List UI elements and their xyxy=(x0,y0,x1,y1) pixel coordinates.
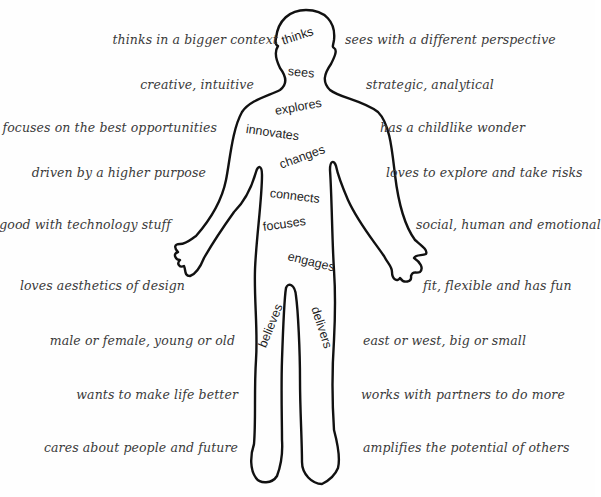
left-trait: creative, intuitive xyxy=(140,77,254,92)
right-trait: amplifies the potential of others xyxy=(363,440,569,455)
right-trait: social, human and emotional xyxy=(416,217,601,232)
right-trait: loves to explore and take risks xyxy=(386,165,583,180)
right-trait: east or west, big or small xyxy=(363,333,526,348)
right-trait: strategic, analytical xyxy=(366,77,494,92)
left-trait: thinks in a bigger context xyxy=(112,32,278,47)
right-trait: has a childlike wonder xyxy=(380,120,525,135)
left-trait: good with technology stuff xyxy=(0,217,171,232)
body-word-sees: sees xyxy=(287,64,315,81)
left-trait: cares about people and future xyxy=(44,440,238,455)
left-trait: male or female, young or old xyxy=(50,333,235,348)
left-trait: wants to make life better xyxy=(76,387,238,402)
left-trait: focuses on the best opportunities xyxy=(3,120,218,135)
left-trait: driven by a higher purpose xyxy=(32,165,206,180)
left-trait: loves aesthetics of design xyxy=(20,278,185,293)
right-trait: works with partners to do more xyxy=(361,387,565,402)
right-trait: fit, flexible and has fun xyxy=(423,278,572,293)
right-trait: sees with a different perspective xyxy=(345,32,556,47)
